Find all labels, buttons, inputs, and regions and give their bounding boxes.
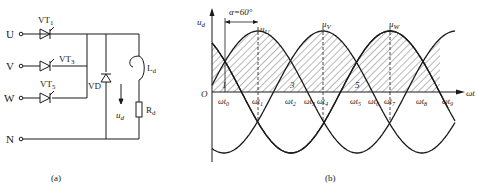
circuit-diagram xyxy=(19,27,144,141)
label-vt5: VT5 xyxy=(40,79,56,91)
label-n: N xyxy=(6,133,14,145)
phase-label-uw: uW xyxy=(389,19,401,31)
circuit-and-waveform-figure: U V W N VT1 VT3 VT5 VD Ld Rd ud (a) α=60… xyxy=(0,0,477,184)
tick-label: ωt9 xyxy=(442,97,453,107)
origin-label: O xyxy=(201,89,208,99)
label-ud: ud xyxy=(116,110,125,122)
label-vt1: VT1 xyxy=(38,15,54,27)
label-u: U xyxy=(6,28,14,40)
tick-label: ωt7 xyxy=(384,97,396,107)
tick-label: ωt6 xyxy=(368,97,379,107)
label-vd: VD xyxy=(88,81,101,91)
resistor-rd xyxy=(136,102,142,117)
tick-label: ωt3 xyxy=(304,97,315,107)
alpha-label: α=60° xyxy=(229,7,253,17)
terminal-w xyxy=(19,96,23,100)
terminal-n xyxy=(19,137,23,141)
label-rd: Rd xyxy=(146,105,156,117)
phase-label-uv: uV xyxy=(322,19,332,31)
label-vt3: VT3 xyxy=(59,54,75,66)
region-5: 5 xyxy=(355,80,360,90)
x-axis-label: ωt xyxy=(466,88,475,98)
tick-label: ωt1 xyxy=(252,97,263,107)
caption-a: (a) xyxy=(51,173,61,183)
tick-label: ωt4 xyxy=(317,97,328,107)
tick-label: ωt0 xyxy=(218,97,229,107)
thyristor-vt1 xyxy=(40,27,54,39)
region-1: 1 xyxy=(222,80,227,90)
caption-b: (b) xyxy=(325,173,336,183)
y-axis-label: ud xyxy=(197,17,206,29)
hatched-output-region xyxy=(212,31,440,92)
terminal-v xyxy=(19,64,23,68)
label-v: V xyxy=(6,60,14,72)
tick-label: ωt8 xyxy=(416,97,427,107)
region-3: 3 xyxy=(289,80,295,90)
tick-label: ωt2 xyxy=(285,97,296,107)
terminal-u xyxy=(19,32,23,36)
thyristor-vt3 xyxy=(40,59,54,71)
tick-label: ωt5 xyxy=(350,97,361,107)
inductor-ld xyxy=(130,56,144,80)
waveform-chart xyxy=(210,8,466,162)
label-ld: Ld xyxy=(147,63,157,75)
label-w: W xyxy=(4,92,15,104)
thyristor-vt5 xyxy=(40,91,54,103)
diode-vd xyxy=(101,74,111,82)
